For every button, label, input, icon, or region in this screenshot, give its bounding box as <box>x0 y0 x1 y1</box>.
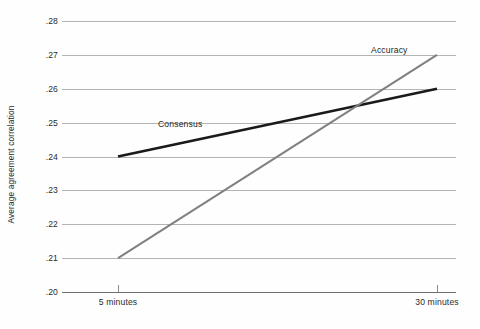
x-axis-tick <box>118 285 119 292</box>
y-axis-tick-labels: .28.27.26.25.24.23.22.21.20 <box>34 21 58 292</box>
series-label-accuracy: Accuracy <box>371 45 408 55</box>
y-tick-label: .23 <box>46 185 58 195</box>
y-axis-title: Average agreement correlation <box>0 0 22 329</box>
x-tick-label: 30 minutes <box>415 297 459 307</box>
x-axis-baseline <box>62 292 456 293</box>
x-axis-tick <box>437 285 438 292</box>
plot-area <box>62 21 456 292</box>
y-tick-label: .28 <box>46 16 58 26</box>
y-tick-label: .22 <box>46 219 58 229</box>
y-tick-label: .26 <box>46 84 58 94</box>
series-line-accuracy <box>118 55 437 258</box>
y-tick-label: .25 <box>46 118 58 128</box>
series-label-consensus: Consensus <box>158 119 202 129</box>
x-axis-tick-labels: 5 minutes30 minutes <box>0 297 480 313</box>
y-tick-label: .20 <box>46 287 58 297</box>
y-tick-label: .24 <box>46 152 58 162</box>
y-tick-label: .27 <box>46 50 58 60</box>
series-layer <box>62 21 456 292</box>
line-chart-figure: Average agreement correlation .28.27.26.… <box>0 0 480 329</box>
y-tick-label: .21 <box>46 253 58 263</box>
x-tick-label: 5 minutes <box>99 297 138 307</box>
